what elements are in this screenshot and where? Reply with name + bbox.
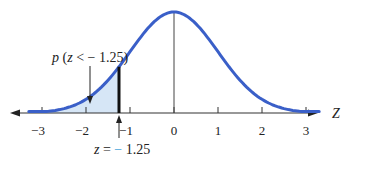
tick-label: 2 (259, 123, 266, 138)
tick-label: −3 (31, 123, 45, 138)
axis-left-arrow-icon (10, 110, 20, 117)
tick-label: 3 (303, 123, 310, 138)
normal-distribution-chart: −3−2−10123 p (z < − 1.25) z = − 1.25 Z (0, 0, 367, 170)
area-probability-label: p (z < − 1.25) (51, 50, 128, 66)
tick-label: −1 (119, 123, 133, 138)
tick-label: 0 (171, 123, 178, 138)
axis-name-label: Z (332, 106, 340, 121)
tick-label: −2 (75, 123, 89, 138)
tick-label: 1 (215, 123, 222, 138)
z-pointer-arrow-icon (116, 115, 122, 123)
z-value-label: z = − 1.25 (93, 142, 150, 157)
